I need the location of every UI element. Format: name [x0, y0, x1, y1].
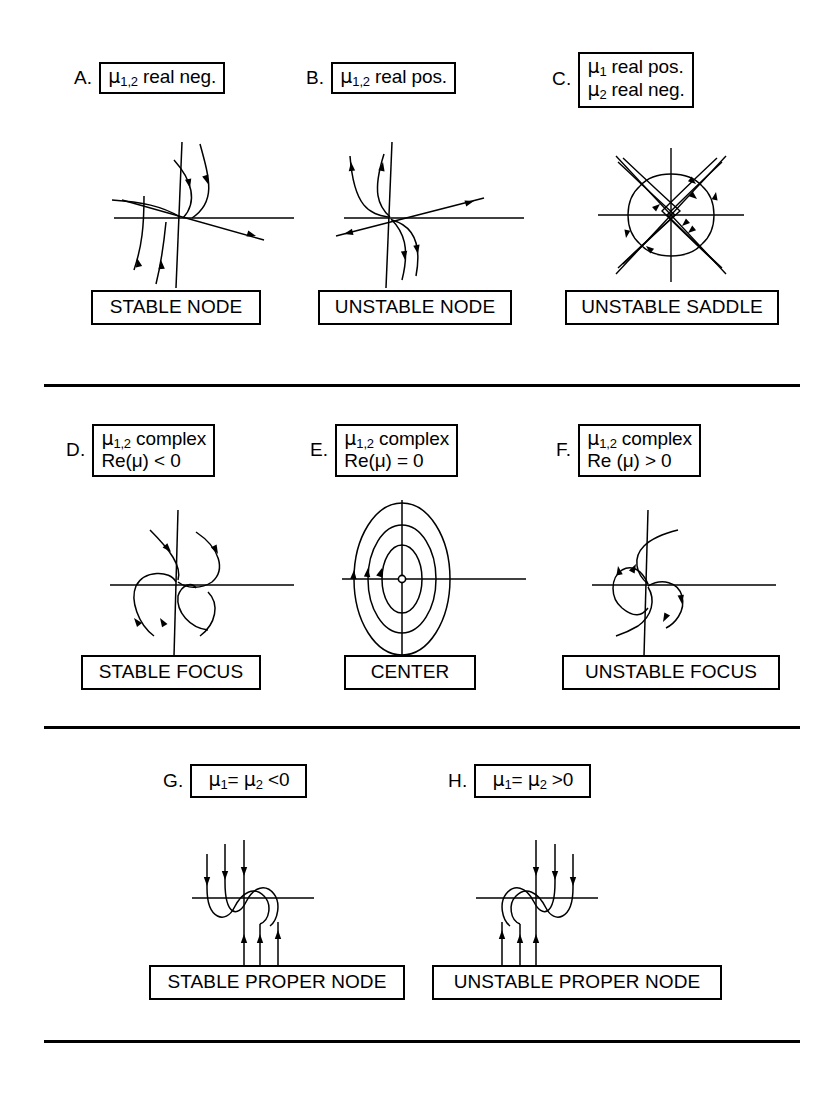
panel-H-diagram-unstable-proper-node [466, 838, 656, 978]
panel-A-letter: A. [74, 68, 92, 89]
panel-H-condition: H. μ1= μ2 >0 [448, 764, 591, 798]
panel-A-diagram-stable-node [104, 140, 304, 290]
panel-D-condition-line-1: μ1,2 complex [101, 428, 206, 449]
arrowhead [552, 871, 558, 880]
panel-B-letter: B. [306, 68, 324, 89]
panel-C-diagram-saddle [570, 140, 770, 290]
panel-E-diagram-center [336, 498, 536, 668]
panel-F-condition-line-1: μ1,2 complex [587, 428, 692, 449]
panel-B-name-box: UNSTABLE NODE [318, 290, 512, 325]
panel-E-condition-line-1: μ1,2 complex [344, 428, 449, 449]
panel-B-condition-line-1: μ1,2 real pos. [340, 66, 447, 87]
panel-C-name-box: UNSTABLE SADDLE [565, 290, 779, 325]
arrowhead [222, 871, 228, 880]
fixed-point-marker [398, 575, 405, 582]
arrowhead [533, 934, 539, 943]
mu-symbol: μ [340, 65, 352, 87]
condition-text: >0 [547, 769, 574, 790]
panel-D-condition-box: μ1,2 complex Re(μ) < 0 [92, 424, 215, 477]
panel-D-condition-line-2: Re(μ) < 0 [101, 450, 180, 471]
mu-symbol: μ [587, 78, 599, 100]
equals-sign: = [511, 769, 527, 790]
panel-F-name-box: UNSTABLE FOCUS [562, 655, 780, 690]
panel-G-condition-line-1: μ1= μ2 <0 [208, 769, 289, 790]
arrowhead [157, 616, 167, 627]
mu-symbol-2: μ [244, 768, 256, 790]
equals-sign: = [228, 769, 244, 790]
panel-G-diagram-stable-proper-node [182, 838, 372, 978]
mu-symbol: μ [208, 768, 220, 790]
panel-E-condition-line-2: Re(μ) = 0 [344, 450, 423, 471]
mu-symbol: μ [587, 55, 599, 77]
arrowhead [464, 198, 474, 207]
panel-F-condition: F. μ1,2 complex Re (μ) > 0 [556, 424, 701, 477]
panel-A-condition-line-1: μ1,2 real neg. [108, 66, 216, 87]
panel-C-letter: C. [552, 69, 571, 90]
panel-C-condition-box: μ1 real pos. μ2 real neg. [578, 52, 693, 108]
panel-F-diagram-unstable-focus [586, 508, 786, 658]
panel-C-condition-line-1: μ1 real pos. [587, 56, 683, 77]
panel-F-condition-line-2: Re (μ) > 0 [587, 450, 671, 471]
mu-symbol: μ [492, 768, 504, 790]
phase-portrait-classification-figure: A. μ1,2 real neg. [0, 0, 834, 1096]
panel-B-diagram-unstable-node [334, 140, 534, 290]
arrowhead [343, 229, 353, 237]
axis-vertical [386, 142, 392, 288]
condition-text: real pos. [606, 56, 683, 77]
arrowhead [241, 934, 247, 943]
panel-E-letter: E. [310, 440, 328, 461]
arrowhead [660, 613, 670, 624]
panel-F-letter: F. [556, 440, 571, 461]
mu-subscript: 1,2 [352, 74, 369, 89]
arrowhead [202, 174, 211, 185]
mu-subscript: 1,2 [120, 74, 137, 89]
arrowhead [257, 934, 263, 943]
condition-text: complex [374, 428, 449, 449]
arrowhead [689, 192, 699, 202]
mu-symbol: μ [101, 427, 113, 449]
condition-text: complex [131, 428, 206, 449]
mu-symbol-2: μ [528, 768, 540, 790]
panel-H-name-box: UNSTABLE PROPER NODE [432, 965, 722, 1000]
arrowhead [241, 867, 247, 876]
panel-A-condition-box: μ1,2 real neg. [99, 62, 225, 94]
mu-symbol: μ [587, 427, 599, 449]
panel-G-condition: G. μ1= μ2 <0 [163, 764, 307, 798]
arrowhead [623, 230, 630, 239]
condition-text: real neg. [606, 79, 684, 100]
arrowhead [401, 251, 408, 261]
arrowhead [686, 226, 696, 236]
section-divider-1 [44, 384, 800, 387]
panel-H-condition-line-1: μ1= μ2 >0 [492, 769, 573, 790]
arrowhead [499, 930, 505, 939]
arrowhead [376, 567, 385, 578]
panel-C-condition-line-2: μ2 real neg. [587, 79, 684, 100]
section-divider-3 [44, 1040, 800, 1043]
arrowhead [158, 260, 165, 269]
panel-H-condition-box: μ1= μ2 >0 [474, 764, 591, 798]
mu-subscript: 1,2 [356, 436, 373, 451]
panel-G-name-box: STABLE PROPER NODE [149, 965, 405, 1000]
panel-A-condition: A. μ1,2 real neg. [74, 62, 225, 94]
panel-G-condition-box: μ1= μ2 <0 [190, 764, 307, 798]
panel-H-letter: H. [448, 771, 467, 792]
panel-C-condition: C. μ1 real pos. μ2 real neg. [552, 52, 694, 108]
section-divider-2 [44, 726, 800, 729]
panel-A-name-box: STABLE NODE [91, 290, 261, 325]
axis-vertical [174, 510, 178, 656]
panel-D-letter: D. [66, 440, 85, 461]
mu-subscript: 1 [220, 777, 227, 792]
arrowhead [378, 161, 386, 171]
panel-B-condition: B. μ1,2 real pos. [306, 62, 456, 94]
arrowhead [204, 877, 210, 886]
arrowhead [350, 570, 357, 579]
mu-subscript: 1,2 [113, 436, 130, 451]
panel-E-name-box: CENTER [344, 655, 476, 690]
mu-symbol: μ [344, 427, 356, 449]
panel-D-diagram-stable-focus [104, 508, 304, 658]
mu-subscript: 1,2 [599, 436, 616, 451]
panel-G-letter: G. [163, 771, 183, 792]
arrowhead [678, 595, 686, 605]
arrowhead [517, 934, 523, 943]
mu-subscript-2: 2 [540, 777, 547, 792]
